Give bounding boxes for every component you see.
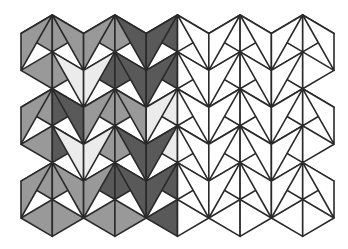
triangle-grid-diagram [0,0,348,249]
